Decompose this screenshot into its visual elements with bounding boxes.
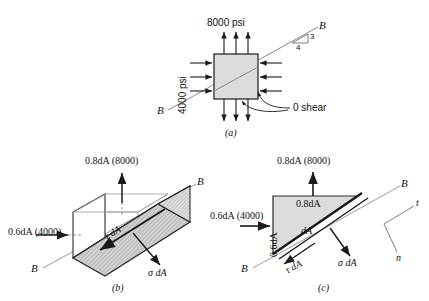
- panel-c-section-label-upper-b: B: [401, 178, 408, 189]
- panel-c-left-force-label: 0.6dA (4000): [210, 211, 263, 221]
- panel-c-nt-axes: [384, 206, 414, 252]
- panel-c-face-label-top: 0.8dA: [296, 199, 321, 209]
- panel-b-caption: (b): [112, 283, 124, 293]
- panel-a-top-stress-label: 8000 psi: [207, 18, 245, 28]
- panel-b-section-label-lower-b: B: [31, 263, 38, 274]
- panel-c-face-label-left: 0.6dA: [269, 232, 279, 257]
- panel-c-area-label: dA: [301, 226, 312, 236]
- stress-element-figure: [0, 0, 429, 301]
- panel-b-top-force-label: 0.8dA (8000): [85, 156, 138, 166]
- panel-a-top-arrows: [224, 32, 248, 54]
- panel-a-zero-shear-label: 0 shear: [293, 103, 326, 113]
- panel-a-section-label-lower-b: B: [157, 105, 164, 116]
- panel-b-left-force-label: 0.6dA (4000): [8, 227, 61, 237]
- panel-a-section-label-upper-b: B: [319, 20, 326, 31]
- panel-a-slope-rise-label: 3: [310, 33, 314, 41]
- panel-a-stress-element-square: [214, 54, 258, 99]
- panel-c-axis-n-label: n: [396, 253, 401, 263]
- panel-a-slope-triangle: [292, 34, 308, 43]
- panel-c-axis-t-label: t: [416, 198, 419, 208]
- panel-c-normal-force-arrow: [330, 228, 350, 256]
- panel-c-normal-force-label: σ dA: [338, 258, 357, 268]
- panel-a-caption: (a): [225, 128, 237, 138]
- panel-c-group: [240, 172, 414, 268]
- panel-b-section-label-upper-b: B: [197, 176, 204, 187]
- panel-a-left-arrows: [190, 63, 212, 91]
- panel-c-section-label-lower-b: B: [241, 263, 248, 274]
- panel-a-right-arrows: [260, 63, 282, 91]
- panel-a-slope-run-label: 4: [296, 44, 300, 52]
- panel-a-left-stress-label: 4000 psi: [178, 76, 188, 114]
- panel-c-top-force-label: 0.8dA (8000): [277, 156, 330, 166]
- panel-a-bottom-arrows: [224, 99, 248, 121]
- panel-c-caption: (c): [318, 283, 329, 293]
- panel-b-normal-force-label: σ dA: [148, 268, 167, 278]
